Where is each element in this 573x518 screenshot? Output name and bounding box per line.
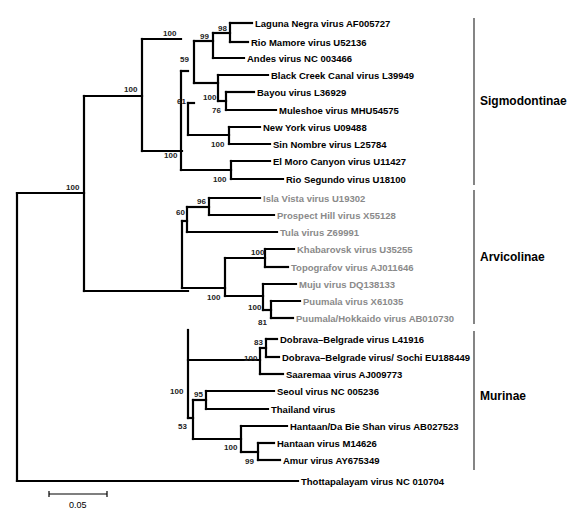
bootstrap-value: 100 [251,248,265,257]
bootstrap-value: 98 [218,24,227,33]
bootstrap-value: 95 [194,390,203,399]
tip-labels: Laguna Negra virus AF005727Rio Mamore vi… [247,18,470,487]
bootstrap-value: 96 [197,197,206,206]
tip-label-muju: Muju virus DQ138133 [299,279,395,290]
scale-bar: 0.05 [49,491,107,510]
bootstrap-value: 61 [177,97,186,106]
bootstrap-value: 100 [170,387,184,396]
tip-label-hantaan: Hantaan virus M14626 [277,438,377,449]
tip-label-sinnombre: Sin Nombre virus L25784 [273,139,387,150]
bootstrap-value: 100 [203,93,217,102]
bootstrap-value: 76 [212,106,221,115]
tip-label-islavista: Isla Vista virus U19302 [263,193,365,204]
tip-label-bayou: Bayou virus L36929 [257,87,346,98]
phylogenetic-tree: 1001001006159999810076100100100609610010… [0,0,573,518]
bootstrap-value: 100 [163,29,177,38]
bootstrap-value: 100 [211,140,225,149]
bootstrap-value: 83 [254,338,263,347]
tip-label-khabarovsk: Khabarovsk virus U35255 [297,244,413,255]
tip-label-newyork: New York virus U09488 [263,122,367,133]
tip-label-hokkaido: Puumala/Hokkaido virus AB010730 [296,313,454,324]
bootstrap-value: 100 [66,183,80,192]
tip-label-prospect: Prospect Hill virus X55128 [277,210,396,221]
bootstrap-value: 100 [244,354,258,363]
clade-annotations: SigmodontinaeArvicolinaeMurinae [474,18,567,470]
bootstrap-value: 100 [213,175,227,184]
tip-label-dobrava: Dobrava–Belgrade virus L41916 [280,334,424,345]
bootstrap-value: 60 [176,208,185,217]
clade-label-murinae: Murinae [480,389,526,403]
tip-label-andes: Andes virus NC 003466 [247,53,352,64]
bootstrap-value: 59 [180,55,189,64]
tip-label-segundo: Rio Segundo virus U18100 [286,174,406,185]
bootstrap-value: 100 [224,443,238,452]
tip-label-muleshoe: Muleshoe virus MHU54575 [279,105,400,116]
tip-label-amur: Amur virus AY675349 [283,455,379,466]
tip-label-thottapalayam: Thottapalayam virus NC 010704 [301,476,445,487]
bootstrap-values: 1001001006159999810076100100100609610010… [66,24,267,466]
tip-label-mamore: Rio Mamore virus U52136 [251,37,367,48]
bootstrap-value: 100 [248,303,262,312]
clade-label-arvicolinae: Arvicolinae [480,250,545,264]
bootstrap-value: 100 [164,151,178,160]
bootstrap-value: 53 [178,422,187,431]
tip-label-topografov: Topografov virus AJ011646 [291,262,414,273]
clade-label-sigmodontinae: Sigmodontinae [480,94,567,108]
tip-label-saaremaa: Saaremaa virus AJ009773 [286,369,402,380]
tip-label-blackcreek: Black Creek Canal virus L39949 [271,70,414,81]
bootstrap-value: 99 [200,32,209,41]
tip-label-laguna: Laguna Negra virus AF005727 [255,18,390,29]
tip-label-hantaandbs: Hantaan/Da Bie Shan virus AB027523 [290,421,459,432]
tip-label-tula: Tula virus Z69991 [280,227,360,238]
tip-label-elmoro: El Moro Canyon virus U11427 [273,156,406,167]
bootstrap-value: 100 [207,293,221,302]
bootstrap-value: 81 [258,318,267,327]
tip-label-sochi: Dobrava–Belgrade virus/ Sochi EU188449 [282,352,470,363]
tip-label-seoul: Seoul virus NC 005236 [277,386,379,397]
scale-bar-label: 0.05 [69,500,87,510]
bootstrap-value: 99 [245,457,254,466]
bootstrap-value: 100 [124,85,138,94]
tip-label-thailand: Thailand virus [271,404,335,415]
tip-label-puumala: Puumala virus X61035 [303,296,404,307]
